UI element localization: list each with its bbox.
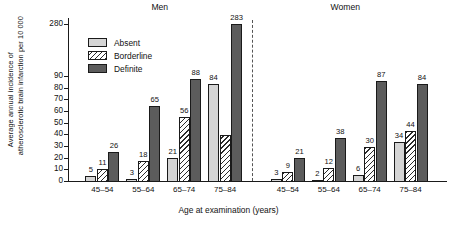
y-tick-label: 280: [49, 20, 63, 28]
y-tick-mark: [64, 158, 68, 159]
bar-men-45-54-absent: [85, 176, 96, 182]
legend-item-borderline: Borderline: [88, 49, 152, 62]
y-tick-label: 90: [54, 72, 63, 80]
bar-value-label: 44: [406, 121, 414, 129]
x-tick-label: 45–54: [91, 185, 113, 194]
legend-swatch-absent: [88, 38, 107, 47]
legend-label: Absent: [114, 38, 140, 48]
y-axis-line: [68, 18, 69, 182]
bar-women-45-54-definite: [294, 158, 305, 183]
legend-item-absent: Absent: [88, 36, 152, 49]
bar-value-label: 21: [295, 148, 303, 156]
x-tick-label: 55–64: [132, 185, 154, 194]
x-tick-label: 65–74: [173, 185, 195, 194]
bar-men-75-84-definite: [231, 24, 242, 182]
bar-value-label: 3: [130, 169, 134, 177]
bar-value-label: 87: [377, 71, 385, 79]
bar-women-75-84-borderline: [405, 131, 416, 182]
bar-value-label: 84: [418, 74, 426, 82]
bar-value-label: 11: [98, 159, 106, 167]
bar-men-55-64-borderline: [138, 161, 149, 182]
bar-men-65-74-definite: [190, 79, 201, 182]
panel-divider: [252, 20, 253, 181]
bar-men-55-64-absent: [126, 179, 137, 183]
bar-men-75-84-absent: [208, 84, 219, 182]
x-axis-title: Age at examination (years): [0, 205, 457, 215]
y-tick-mark: [64, 123, 68, 124]
bar-value-label: 5: [89, 166, 93, 174]
bar-value-label: 9: [286, 162, 290, 170]
panel-caption-men: Men: [151, 2, 168, 12]
y-tick-label: 60: [54, 107, 63, 115]
legend-swatch-definite: [88, 64, 107, 73]
bar-value-label: 12: [325, 158, 333, 166]
y-axis-title-line1: Average annual incidence of: [6, 52, 15, 147]
y-axis-title-line2: atherosclerotic brain infarction per 10 …: [16, 16, 25, 155]
bar-women-75-84-definite: [417, 84, 428, 182]
bar-women-55-64-absent: [312, 180, 323, 182]
legend-label: Definite: [114, 64, 142, 74]
bar-women-65-74-absent: [353, 175, 364, 182]
y-tick-mark: [64, 88, 68, 89]
bar-women-75-84-absent: [394, 142, 405, 182]
y-tick-mark: [64, 181, 68, 182]
bar-men-55-64-definite: [149, 106, 160, 182]
x-tick-label: 65–74: [359, 185, 381, 194]
bar-men-45-54-definite: [108, 152, 119, 182]
bar-women-55-64-borderline: [323, 168, 334, 182]
y-tick-mark: [64, 111, 68, 112]
y-tick-mark: [64, 76, 68, 77]
panel-caption-women: Women: [331, 2, 360, 12]
bar-value-label: 88: [191, 69, 199, 77]
legend-item-definite: Definite: [88, 62, 152, 75]
y-tick-mark: [64, 169, 68, 170]
x-tick-label: 75–84: [214, 185, 236, 194]
chart-legend: AbsentBorderlineDefinite: [88, 36, 152, 75]
legend-swatch-borderline: [88, 51, 107, 60]
y-tick-label: 30: [54, 142, 63, 150]
bar-value-label: 34: [395, 132, 403, 140]
y-tick-label: 40: [54, 130, 63, 138]
chart-figure: Average annual incidence of atherosclero…: [0, 0, 457, 225]
y-tick-label: 80: [54, 84, 63, 92]
y-tick-mark: [64, 146, 68, 147]
bar-women-65-74-definite: [376, 81, 387, 183]
bar-women-45-54-borderline: [282, 172, 293, 183]
bar-value-label: 30: [365, 137, 373, 145]
bar-value-label: 6: [356, 165, 360, 173]
bar-women-55-64-definite: [335, 138, 346, 182]
bar-value-label: 18: [139, 151, 147, 159]
legend-label: Borderline: [114, 51, 152, 61]
y-tick-mark: [64, 24, 68, 25]
bar-value-label: 56: [180, 107, 188, 115]
bar-men-65-74-absent: [167, 158, 178, 183]
bar-value-label: 283: [230, 14, 243, 22]
bar-value-label: 84: [209, 74, 217, 82]
bar-value-label: 2: [315, 170, 319, 178]
bar-men-45-54-borderline: [97, 169, 108, 182]
bar-value-label: 65: [151, 96, 159, 104]
y-tick-label: 50: [54, 119, 63, 127]
y-tick-label: 20: [54, 154, 63, 162]
bar-value-label: 21: [168, 148, 176, 156]
bar-value-label: 26: [110, 142, 118, 150]
x-tick-label: 55–64: [318, 185, 340, 194]
y-tick-mark: [64, 99, 68, 100]
y-tick-label: 0: [58, 177, 63, 185]
bar-men-65-74-borderline: [179, 117, 190, 182]
y-tick-label: 10: [54, 165, 63, 173]
y-tick-mark: [64, 134, 68, 135]
bar-men-75-84-borderline: [220, 135, 231, 182]
bar-women-45-54-absent: [271, 179, 282, 183]
x-tick-label: 75–84: [399, 185, 421, 194]
x-tick-label: 45–54: [277, 185, 299, 194]
bar-women-65-74-borderline: [364, 147, 375, 182]
bar-value-label: 3: [274, 169, 278, 177]
x-axis-line: [68, 181, 447, 182]
y-tick-label: 70: [54, 95, 63, 103]
bar-value-label: 38: [336, 128, 344, 136]
